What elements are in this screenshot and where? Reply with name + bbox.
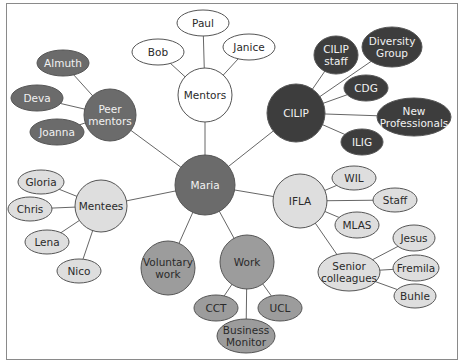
node-label: CDG: [354, 82, 378, 94]
node-label: Group: [376, 47, 408, 59]
node-mlas: MLAS: [335, 212, 379, 238]
node-label: Jesus: [399, 232, 427, 244]
node-label: colleagues: [321, 272, 377, 284]
node-label: CILIP: [283, 107, 309, 119]
node-jesus: Jesus: [393, 225, 435, 251]
node-label: Janice: [232, 41, 264, 53]
node-label: work: [155, 268, 181, 280]
node-cct: CCT: [194, 295, 238, 321]
node-joanna: Joanna: [30, 119, 84, 145]
node-label: Diversity: [369, 35, 416, 47]
node-buhle: Buhle: [394, 284, 436, 308]
node-diversity: DiversityGroup: [362, 27, 422, 67]
node-label: Deva: [23, 92, 50, 104]
node-label: CCT: [205, 302, 227, 314]
node-label: Paul: [192, 17, 214, 29]
node-label: Work: [234, 256, 262, 268]
node-work: Work: [220, 235, 274, 289]
node-label: Mentees: [79, 200, 124, 212]
node-label: Fremila: [397, 262, 435, 274]
node-label: UCL: [270, 302, 291, 314]
node-label: New: [403, 105, 426, 117]
node-wil: WIL: [332, 166, 376, 190]
node-janice: Janice: [223, 34, 275, 60]
node-gloria: Gloria: [18, 170, 64, 194]
node-mentees: Mentees: [75, 180, 127, 232]
node-label: Bob: [148, 46, 169, 58]
mind-map-canvas: MariaMentorsPaulBobJanicePeermentorsAlmu…: [0, 0, 464, 364]
node-label: Monitor: [226, 336, 267, 348]
node-voluntary: Voluntarywork: [141, 241, 195, 295]
node-label: staff: [324, 55, 348, 67]
node-cdg: CDG: [344, 75, 388, 101]
node-lena: Lena: [25, 230, 69, 254]
node-mentors: Mentors: [178, 68, 232, 122]
mind-map-nodes: MariaMentorsPaulBobJanicePeermentorsAlmu…: [8, 10, 451, 353]
node-peer: Peermentors: [84, 89, 136, 141]
node-cilip: CILIP: [267, 84, 325, 142]
node-paul: Paul: [177, 10, 229, 36]
node-ifla: IFLA: [273, 174, 327, 228]
node-label: ILIG: [352, 136, 372, 148]
node-almuth: Almuth: [37, 50, 89, 76]
node-bizmon: BusinessMonitor: [217, 319, 275, 353]
node-cilipstaff: CILIPstaff: [314, 36, 358, 74]
node-label: Buhle: [400, 290, 430, 302]
node-label: mentors: [88, 115, 132, 127]
node-newpro: NewProfessionals: [377, 98, 451, 136]
node-label: MLAS: [343, 219, 372, 231]
node-staff: Staff: [373, 188, 417, 212]
node-label: Gloria: [25, 176, 56, 188]
node-label: IFLA: [289, 195, 312, 207]
node-fremila: Fremila: [393, 255, 439, 281]
node-ilig: ILIG: [341, 129, 383, 155]
node-label: Mentors: [184, 89, 227, 101]
node-label: Voluntary: [143, 256, 193, 268]
node-label: Staff: [383, 194, 408, 206]
node-ucl: UCL: [258, 295, 302, 321]
node-label: Chris: [17, 203, 44, 215]
node-label: Almuth: [44, 57, 82, 69]
node-label: Senior: [332, 260, 366, 272]
node-senior: Seniorcolleagues: [318, 253, 380, 291]
node-label: Professionals: [380, 117, 449, 129]
node-label: Business: [223, 324, 269, 336]
node-nico: Nico: [57, 259, 101, 283]
node-chris: Chris: [8, 197, 52, 221]
node-label: Joanna: [38, 126, 75, 138]
node-bob: Bob: [132, 39, 184, 65]
node-deva: Deva: [11, 85, 63, 111]
node-label: Nico: [68, 265, 91, 277]
node-label: WIL: [344, 172, 363, 184]
node-label: CILIP: [323, 43, 349, 55]
node-label: Maria: [190, 179, 219, 191]
node-maria: Maria: [175, 155, 235, 215]
node-label: Peer: [98, 103, 122, 115]
node-label: Lena: [34, 236, 59, 248]
